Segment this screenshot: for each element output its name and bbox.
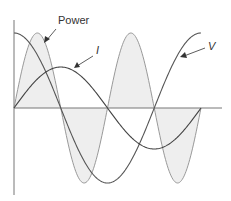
ac-power-diagram: Power I V: [0, 0, 231, 201]
voltage-label: V: [208, 40, 217, 52]
voltage-arrow: [184, 48, 205, 56]
voltage-arrowhead-icon: [180, 52, 187, 58]
current-arrow: [77, 56, 93, 66]
power-label: Power: [58, 14, 90, 26]
current-label: I: [96, 44, 99, 56]
